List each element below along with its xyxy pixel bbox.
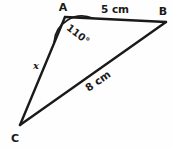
side-ac-label: x	[32, 60, 40, 71]
side-ab-label: 5 cm	[101, 3, 129, 15]
triangle-diagram-canvas: 110° 5 cm 8 cm x A B C	[0, 0, 173, 149]
side-ab-line	[65, 17, 166, 22]
vertex-label-c: C	[11, 132, 19, 145]
vertex-label-a: A	[59, 1, 68, 14]
triangle-figure: 110° 5 cm 8 cm x A B C	[0, 0, 173, 149]
vertex-label-b: B	[159, 5, 167, 18]
angle-a-label: 110°	[65, 22, 92, 47]
